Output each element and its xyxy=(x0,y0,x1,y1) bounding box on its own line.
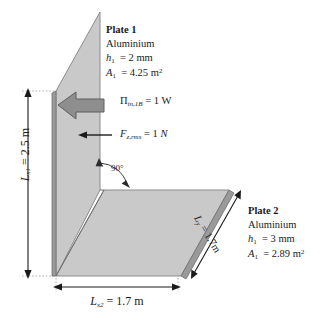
angle-arrow-head-lower xyxy=(122,180,130,188)
plate2-title: Plate 2 xyxy=(248,205,279,216)
input-power-label: Πin,1B = 1 W xyxy=(120,95,171,108)
lx1-arrow-head-top xyxy=(24,88,31,97)
diagram-svg xyxy=(0,0,332,322)
ly-arrow-head-lower xyxy=(191,269,198,279)
angle-label: 90° xyxy=(111,163,124,173)
ly-arrow-head-upper xyxy=(234,190,241,200)
plate2-info-block: Plate 2 Aluminium h1 = 3 mm A1 = 2.89 m2 xyxy=(248,204,304,262)
lx2-arrow-head-right xyxy=(172,283,181,290)
plate2-thickness: h1 = 3 mm xyxy=(248,232,304,247)
plate1-title: Plate 1 xyxy=(106,24,137,35)
plate2-material: Aluminium xyxy=(248,218,304,232)
lx1-dimension-label: Lx1 = 2.5 m xyxy=(18,107,33,203)
lx1-arrow-head-bottom xyxy=(24,270,31,279)
lx2-arrow-head-left xyxy=(53,283,62,290)
force-label: Fz,rms = 1 N xyxy=(120,128,167,141)
plate1-thickness-edge xyxy=(52,91,56,276)
lx2-dimension-label: Lx2 = 1.7 m xyxy=(56,294,178,309)
plate2-area: A1 = 2.89 m2 xyxy=(248,247,304,262)
plate1-thickness: h1 = 2 mm xyxy=(106,51,162,66)
diagram-root: Plate 1 Aluminium h1 = 2 mm A1 = 4.25 m2… xyxy=(0,0,332,322)
plate1-info-block: Plate 1 Aluminium h1 = 2 mm A1 = 4.25 m2 xyxy=(106,23,162,81)
plate1-area: A1 = 4.25 m2 xyxy=(106,66,162,81)
plate1-material: Aluminium xyxy=(106,37,162,51)
